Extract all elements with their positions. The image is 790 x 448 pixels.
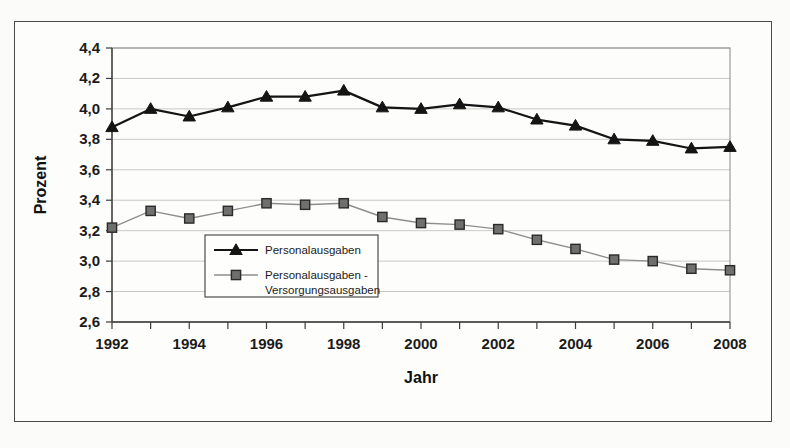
data-point-marker-triangle [453,98,465,109]
legend-label-2: Personalausgaben - [265,269,368,281]
x-axis-title: Jahr [404,369,438,386]
y-tick-label: 3,8 [79,130,100,147]
data-point-marker-square [262,199,271,208]
y-axis-title: Prozent [32,155,49,214]
data-point-marker-square [301,200,310,209]
data-point-marker-square [231,270,240,279]
x-tick-marks-group [112,322,730,329]
data-point-marker-square [648,257,657,266]
x-tick-label: 2008 [713,335,746,352]
data-series-group [106,84,736,274]
y-tick-label: 3,6 [79,161,100,178]
data-point-marker-square [339,199,348,208]
x-tick-label: 2006 [636,335,669,352]
legend-label-2-line2: Versorgungsausgaben [265,284,380,296]
x-tick-label: 1998 [327,335,360,352]
data-point-marker-triangle [338,84,350,95]
y-tick-labels-group: 2,62,83,03,23,43,63,84,04,24,4 [79,39,101,330]
legend-label-1: Personalausgaben [265,244,361,256]
data-point-marker-triangle [144,103,156,114]
chart-figure: 2,62,83,03,23,43,63,84,04,24,4 199219941… [0,0,790,448]
y-tick-label: 4,2 [79,69,100,86]
data-point-marker-square [455,220,464,229]
y-tick-label: 3,4 [79,191,101,208]
data-point-marker-square [185,214,194,223]
y-tick-label: 2,6 [79,313,100,330]
data-point-marker-square [610,255,619,264]
x-tick-label: 2002 [482,335,515,352]
x-tick-label: 1992 [95,335,128,352]
data-point-marker-square [494,225,503,234]
x-tick-label: 2000 [404,335,437,352]
x-tick-label: 1996 [250,335,283,352]
x-tick-labels-group: 199219941996199820002002200420062008 [95,335,746,352]
x-tick-label: 2004 [559,335,593,352]
y-tick-label: 4,0 [79,100,100,117]
x-tick-label: 1994 [173,335,207,352]
data-point-marker-square [146,206,155,215]
y-tick-label: 3,0 [79,252,100,269]
data-point-marker-square [725,266,734,275]
data-point-marker-square [378,212,387,221]
y-tick-label: 4,4 [79,39,101,56]
data-point-marker-square [416,218,425,227]
data-point-marker-square [532,235,541,244]
data-point-marker-square [107,223,116,232]
y-tick-label: 2,8 [79,283,100,300]
data-point-marker-square [223,206,232,215]
line-chart: 2,62,83,03,23,43,63,84,04,24,4 199219941… [0,0,790,448]
y-tick-marks-group [106,48,112,322]
data-point-marker-square [571,244,580,253]
data-point-marker-square [687,264,696,273]
y-tick-label: 3,2 [79,222,100,239]
chart-legend: PersonalausgabenPersonalausgaben -Versor… [205,235,380,297]
